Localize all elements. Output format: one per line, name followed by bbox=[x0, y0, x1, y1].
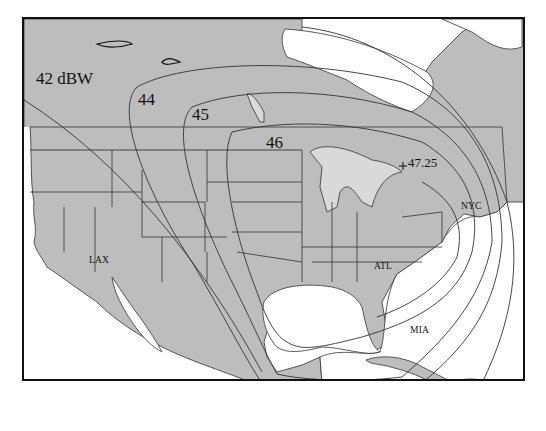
map-canvas bbox=[24, 19, 525, 381]
city-label-mia: MIA bbox=[410, 326, 429, 336]
city-label-nyc: NYC bbox=[461, 202, 482, 212]
peak-label: 47.25 bbox=[408, 156, 437, 169]
contour-label-42: 42 dBW bbox=[36, 70, 93, 87]
contour-label-44: 44 bbox=[138, 91, 155, 108]
city-label-mex: MEX bbox=[256, 380, 278, 381]
city-label-atl: ATL bbox=[374, 262, 392, 272]
contour-label-46: 46 bbox=[266, 134, 283, 151]
hispaniola bbox=[455, 379, 492, 381]
contour-label-45: 45 bbox=[192, 106, 209, 123]
city-label-lax: LAX bbox=[89, 256, 109, 266]
map-frame: 42 dBW 44 45 46 47.25 LAX NYC ATL MIA ME… bbox=[22, 17, 525, 381]
